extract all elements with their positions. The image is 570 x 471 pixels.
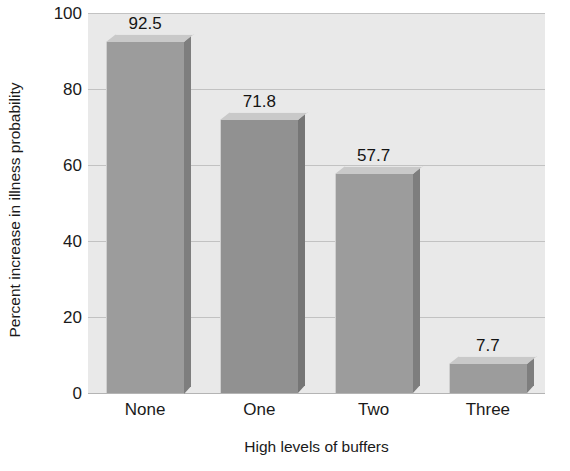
chart-figure: Percent increase in illness probability … — [0, 0, 570, 471]
bar-top-face — [449, 356, 537, 364]
bar-top-face — [106, 34, 194, 42]
y-axis-tick-labels: 020406080100 — [34, 0, 82, 471]
y-axis-tick-label: 0 — [36, 385, 82, 402]
y-axis-title: Percent increase in illness probability — [0, 0, 30, 420]
bar-top-face — [335, 166, 423, 174]
bar-front-face — [335, 174, 413, 393]
bar-value-label: 57.7 — [334, 146, 414, 166]
x-axis-tick-label: Three — [438, 400, 538, 420]
bar — [106, 42, 184, 394]
x-axis-tick-label: One — [209, 400, 309, 420]
gridline — [88, 393, 545, 394]
bar-top-face — [220, 112, 308, 120]
x-axis-tick-label: None — [95, 400, 195, 420]
bar-front-face — [220, 120, 298, 393]
y-axis-tick-label: 40 — [36, 233, 82, 250]
bar — [220, 120, 298, 393]
bar — [449, 364, 527, 393]
y-axis-tick-label: 100 — [36, 5, 82, 22]
x-axis-tick-label: Two — [324, 400, 424, 420]
y-axis-tick-label: 60 — [36, 157, 82, 174]
bar-value-label: 7.7 — [448, 336, 528, 356]
bar-front-face — [106, 42, 184, 394]
x-axis-title: High levels of buffers — [88, 438, 545, 456]
bar-side-face — [413, 166, 420, 393]
bar — [335, 174, 413, 393]
bar-value-label: 92.5 — [105, 14, 185, 34]
y-axis-title-text: Percent increase in illness probability — [6, 82, 24, 337]
bar-side-face — [184, 34, 191, 393]
bar-value-label: 71.8 — [219, 92, 299, 112]
bar-front-face — [449, 364, 527, 393]
bar-side-face — [298, 112, 305, 393]
y-axis-tick-label: 20 — [36, 309, 82, 326]
y-axis-tick-label: 80 — [36, 81, 82, 98]
